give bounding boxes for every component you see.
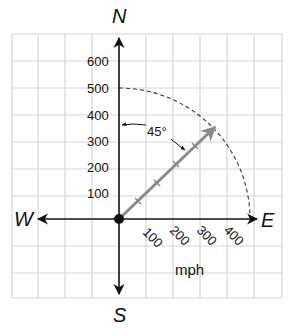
north-label: N <box>112 5 127 27</box>
svg-text:400: 400 <box>87 108 109 123</box>
svg-text:600: 600 <box>87 54 109 69</box>
svg-text:300: 300 <box>87 134 109 149</box>
north-axis-ticks: 600 500 400 300 200 100 <box>87 54 109 201</box>
angle-arc-left <box>122 124 146 125</box>
svg-text:400: 400 <box>221 223 247 249</box>
west-label: W <box>14 208 35 230</box>
grid <box>12 34 282 298</box>
velocity-vector-diagram: 45° N S W E 600 500 400 300 200 100 100 … <box>0 0 293 329</box>
origin-point <box>114 214 124 224</box>
velocity-vector <box>119 127 215 219</box>
svg-text:100: 100 <box>87 186 109 201</box>
svg-text:300: 300 <box>194 223 220 249</box>
angle-label: 45° <box>147 124 167 139</box>
south-label: S <box>113 304 127 326</box>
east-label: E <box>261 209 275 231</box>
svg-text:200: 200 <box>87 160 109 175</box>
unit-label: mph <box>175 261 204 278</box>
svg-text:200: 200 <box>167 223 193 249</box>
svg-text:500: 500 <box>87 81 109 96</box>
